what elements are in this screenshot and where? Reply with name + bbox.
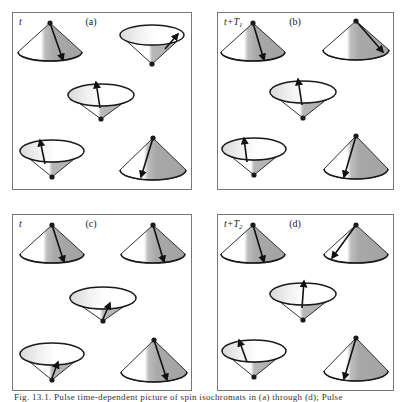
upright-cone-1 [121,222,185,263]
upright-cone-0 [18,20,82,61]
panel-letter: (d) [289,218,301,230]
apex-dot [353,335,358,340]
apex-dot [151,337,156,342]
panel-letter: (c) [85,218,96,230]
upright-cone-4 [120,135,186,180]
apex-dot [250,222,255,227]
apex-dot [300,115,305,120]
panel-letter: (b) [289,16,301,28]
upright-cone-0 [20,222,84,263]
inverted-cone-3 [20,343,84,383]
inverted-cone-3 [222,340,286,380]
inverted-cone-3 [20,140,84,180]
apex-dot [353,133,358,138]
apex-dot [150,135,155,140]
time-label: t [19,16,22,27]
inverted-cone-2 [70,287,136,324]
apex-dot [300,317,305,322]
apex-dot [150,222,155,227]
inverted-cone-1 [120,25,184,67]
time-label: t+T1 [224,16,243,29]
figure-caption: Fig. 13.1. Pulse time-dependent picture … [14,392,399,402]
upright-cone-4 [324,335,388,381]
inverted-cone-2 [270,281,336,323]
upright-cone-1 [323,18,389,60]
apex-dot [100,318,105,323]
panel-c: t(c) [13,215,192,391]
apex-dot [49,377,54,382]
apex-dot [47,20,52,25]
apex-dot [353,18,358,23]
panels-layer: t(a)t+T1(b)t(c)t+T2(d) [13,13,394,391]
apex-dot [251,172,256,177]
panel-a: t(a) [13,13,192,190]
upright-cone-4 [324,133,388,179]
apex-dot [251,374,256,379]
inverted-cone-3 [222,138,286,178]
inverted-cone-2 [270,79,336,121]
apex-dot [49,174,54,179]
apex-dot [49,222,54,227]
apex-dot [149,61,154,66]
upright-cone-1 [324,222,388,263]
upright-cone-4 [121,337,187,382]
panel-b: t+T1(b) [218,13,394,190]
time-label: t+T2 [224,218,243,231]
apex-dot [98,116,103,121]
time-label: t [19,218,22,229]
apex-dot [353,222,358,227]
panel-letter: (a) [85,16,96,28]
panel-d: t+T2(d) [218,215,394,391]
inverted-cone-2 [68,82,134,122]
apex-dot [250,20,255,25]
